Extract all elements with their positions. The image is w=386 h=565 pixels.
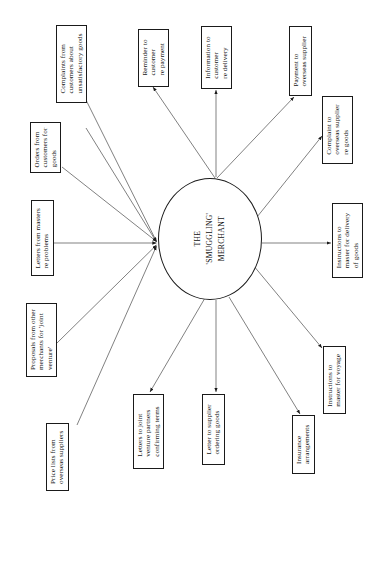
edge-reminder-to-customer [153,87,215,178]
edge-orders-from-customers [62,167,157,242]
node-instructions-to-master-voyage[interactable]: Instructions to master for voyage [323,346,346,414]
edge-proposals-from-other-merchants [57,245,157,343]
edge-complaint-to-overseas-supplier [253,136,322,222]
node-label: Price lists from overseas suppliers [49,430,66,483]
node-complaint-to-overseas-supplier[interactable]: Complaint to overseas supplier re goods [322,96,353,164]
node-insurance-arrangements[interactable]: Insurance arrangements [292,415,315,474]
edge-insurance-arrangements [229,297,300,414]
node-instructions-to-master-delivery[interactable]: Instructions to master for delivery of g… [332,203,363,278]
node-label: Complaint to overseas supplier re goods [325,105,350,155]
node-label: Letters from masters re problems [34,208,51,268]
node-label: Instructions to master for voyage [326,354,343,407]
node-label: Letter to supplier ordering goods [205,404,222,454]
center-node-label: THE 'SMUGGLING' MERCHANT [192,213,227,265]
node-information-to-customer[interactable]: Information to customer re delivery [201,26,232,89]
node-label: Complaints from customers about unsatisf… [59,34,84,94]
node-label: Reminder to customer re payment [141,40,166,76]
node-label: Payment to overseas supplier [292,36,309,86]
node-label: Proposals from other merchants for 'join… [29,309,54,370]
node-payment-to-overseas-supplier[interactable]: Payment to overseas supplier [289,26,312,96]
node-label: Orders from customers for goods [33,128,58,168]
node-label: Letters to joint venture partners confir… [136,406,161,456]
node-letters-from-masters[interactable]: Letters from masters re problems [31,200,54,276]
edge-letters-to-joint-venture-partners [150,298,205,392]
node-label: Information to customer re delivery [204,36,229,78]
edge-letters-from-masters-secondary [86,128,157,242]
node-reminder-to-customer[interactable]: Reminder to customer re payment [138,29,169,87]
node-proposals-from-other-merchants[interactable]: Proposals from other merchants for 'join… [26,303,57,377]
center-node: THE 'SMUGGLING' MERCHANT [158,178,262,300]
node-orders-from-customers[interactable]: Orders from customers for goods [30,122,61,173]
edge-payment-to-overseas-supplier [217,97,294,178]
node-letter-to-supplier-ordering-goods[interactable]: Letter to supplier ordering goods [202,394,225,465]
node-letters-to-joint-venture-partners[interactable]: Letters to joint venture partners confir… [133,394,164,469]
node-label: Instructions to master for delivery of g… [335,213,360,269]
inbound-edges [54,100,157,425]
edge-instructions-to-master-voyage [253,265,322,348]
edge-complaints-from-customers [86,100,157,242]
node-complaints-from-customers[interactable]: Complaints from customers about unsatisf… [56,25,87,103]
node-label: Insurance arrangements [295,425,312,464]
node-price-lists-from-overseas-suppliers[interactable]: Price lists from overseas suppliers [46,423,69,491]
